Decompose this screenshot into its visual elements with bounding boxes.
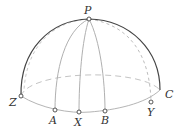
label-c: C <box>165 88 174 101</box>
meridian-p-a <box>55 19 89 110</box>
label-a: A <box>48 114 57 127</box>
equator-front-arc <box>21 90 160 112</box>
point-b <box>103 109 107 113</box>
label-y: Y <box>147 106 156 119</box>
meridian-p-b <box>89 19 105 111</box>
hidden-meridian-left <box>24 19 89 90</box>
outer-arc <box>21 19 160 96</box>
point-a <box>53 108 57 112</box>
label-p: P <box>83 4 92 17</box>
equator-back-arc <box>21 75 160 96</box>
point-z <box>19 94 23 98</box>
label-x: X <box>73 116 83 129</box>
label-b: B <box>100 114 109 127</box>
point-p <box>87 17 91 21</box>
hemisphere-diagram: P Z A X B Y C <box>0 0 183 140</box>
point-x <box>77 110 81 114</box>
meridian-p-y <box>89 19 151 102</box>
point-y <box>149 100 153 104</box>
meridian-p-x <box>79 19 89 112</box>
label-z: Z <box>8 96 17 109</box>
